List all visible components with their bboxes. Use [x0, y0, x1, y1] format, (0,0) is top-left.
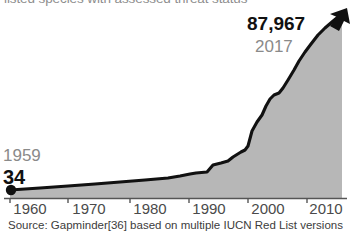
- x-tick-label-1990: 1990: [192, 200, 225, 217]
- end-year-label: 2017: [255, 38, 293, 55]
- start-value-label: 34: [3, 167, 25, 187]
- x-tick-label-1960: 1960: [13, 200, 46, 217]
- x-tick-label-2010: 2010: [309, 200, 342, 217]
- x-tick-label-1980: 1980: [133, 200, 166, 217]
- chart-figure: listed species with assessed threat stat…: [0, 0, 351, 236]
- source-note: Source: Gapminder[36] based on multiple …: [0, 219, 351, 231]
- start-year-label: 1959: [3, 147, 41, 164]
- end-value-label: 87,967: [247, 14, 305, 33]
- x-tick-label-1970: 1970: [72, 200, 105, 217]
- chart-plot-area: [0, 0, 351, 236]
- x-tick-label-2000: 2000: [251, 200, 284, 217]
